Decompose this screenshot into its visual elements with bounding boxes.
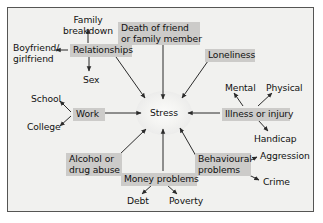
node-loneliness[interactable]: Loneliness xyxy=(205,49,255,62)
node-boyfriend-girlfriend[interactable]: Boyfriend/ girlfriend xyxy=(12,42,62,65)
node-mental[interactable]: Mental xyxy=(224,82,256,95)
node-debt[interactable]: Debt xyxy=(126,195,152,208)
node-illness-or-injury[interactable]: Illness or injury xyxy=(222,108,290,121)
node-physical[interactable]: Physical xyxy=(265,82,301,95)
node-school[interactable]: School xyxy=(30,93,62,106)
node-aggression[interactable]: Aggression xyxy=(259,150,307,163)
node-poverty[interactable]: Poverty xyxy=(168,195,204,208)
node-family-breakdown[interactable]: Family breakdown xyxy=(62,14,114,37)
node-relationships[interactable]: Relationships xyxy=(70,44,132,57)
node-death-of-friend[interactable]: Death of friend or family member xyxy=(118,22,200,45)
node-handicap[interactable]: Handicap xyxy=(253,133,295,146)
arrow-money-problems-to-debt xyxy=(142,185,152,194)
arrow-relationships-to-stress xyxy=(116,57,145,98)
node-behavioural-problems[interactable]: Behavioural problems xyxy=(195,153,251,176)
arrow-illness-to-handicap xyxy=(258,120,268,131)
arrow-alcohol-to-stress xyxy=(118,129,146,156)
arrow-illness-to-physical xyxy=(258,93,272,106)
node-work[interactable]: Work xyxy=(73,108,105,121)
arrow-money-problems-to-poverty xyxy=(167,185,177,194)
node-college[interactable]: College xyxy=(26,121,62,134)
diagram-canvas: Stress Family breakdown Death of friend … xyxy=(0,0,323,223)
arrow-illness-to-mental xyxy=(234,93,243,106)
node-stress[interactable]: Stress xyxy=(147,108,181,119)
node-money-problems[interactable]: Money problems xyxy=(121,173,197,186)
arrow-behavioural-to-stress xyxy=(180,128,196,156)
arrow-loneliness-to-stress xyxy=(182,61,208,98)
node-sex[interactable]: Sex xyxy=(82,74,106,87)
node-crime[interactable]: Crime xyxy=(262,176,292,189)
node-alcohol-drug-abuse[interactable]: Alcohol or drug abuse xyxy=(66,153,122,176)
